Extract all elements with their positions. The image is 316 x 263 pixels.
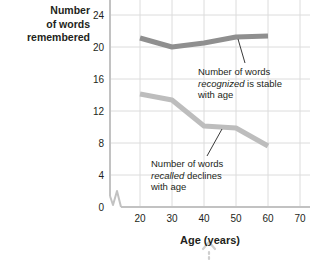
annotation-recognized-emphasis: recognized: [198, 78, 244, 89]
annotation-recognized-line-2-rest: is stable: [244, 78, 282, 89]
annotation-recalled-line-3: with age: [151, 181, 223, 193]
plot-area: [0, 0, 316, 263]
annotation-recalled-emphasis: recalled: [151, 170, 184, 181]
annotation-leader-recognized: [238, 39, 245, 63]
annotation-recalled-line-2: recalled declines: [151, 170, 223, 182]
annotation-recalled-line-2-rest: declines: [184, 170, 222, 181]
axis-break-symbol: [110, 191, 121, 207]
annotation-recalled: Number of words recalled declines with a…: [151, 158, 223, 193]
annotation-recognized: Number of words recognized is stable wit…: [198, 66, 282, 101]
annotation-recognized-line-3: with age: [198, 89, 282, 101]
annotation-recognized-line-2: recognized is stable: [198, 78, 282, 90]
chart-container: Number of words remembered 24 20 16 12 8…: [0, 0, 316, 263]
annotation-recalled-line-1: Number of words: [151, 158, 223, 170]
annotation-recognized-line-1: Number of words: [198, 66, 282, 78]
x-axis-title: Age (years): [110, 234, 310, 246]
